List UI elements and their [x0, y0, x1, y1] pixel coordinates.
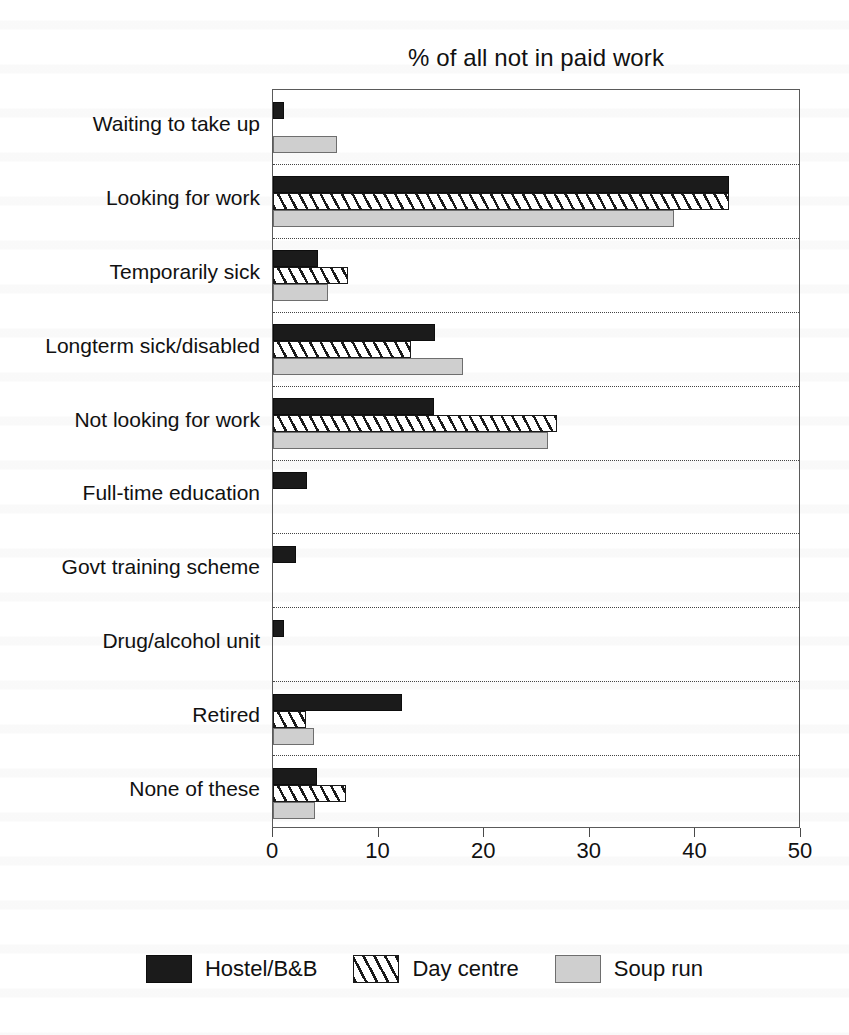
bar-souprun: [273, 210, 674, 227]
bar-group: [273, 164, 799, 238]
bar-hostel: [273, 694, 402, 711]
hatched-swatch: [353, 955, 399, 983]
x-axis-tick: [800, 828, 801, 837]
bar-group: [273, 681, 799, 755]
legend-label: Hostel/B&B: [205, 956, 318, 982]
solid-black-swatch: [146, 955, 192, 983]
bar-daycentre: [273, 267, 348, 284]
bar-group: [273, 90, 799, 164]
bar-daycentre: [273, 341, 411, 358]
plot-area: [272, 89, 800, 828]
y-axis-category-label: Waiting to take up: [0, 112, 260, 136]
bar-souprun: [273, 728, 314, 745]
x-axis-tick-label: 0: [242, 838, 302, 864]
bar-group: [273, 533, 799, 607]
bar-hostel: [273, 250, 318, 267]
y-axis-category-label: Looking for work: [0, 186, 260, 210]
bar-hostel: [273, 102, 284, 119]
bars-layer: [273, 90, 799, 827]
x-axis-tick: [483, 828, 484, 837]
legend-item: Soup run: [555, 955, 703, 983]
x-axis-tick-label: 10: [348, 838, 408, 864]
bar-group: [273, 460, 799, 534]
bar-hostel: [273, 768, 317, 785]
x-axis-tick-label: 50: [770, 838, 830, 864]
bar-hostel: [273, 620, 284, 637]
y-axis-category-label: Retired: [0, 703, 260, 727]
x-axis-tick-label: 20: [453, 838, 513, 864]
bar-hostel: [273, 472, 307, 489]
y-axis-category-label: Govt training scheme: [0, 555, 260, 579]
bar-souprun: [273, 284, 328, 301]
bar-hostel: [273, 324, 435, 341]
y-axis-category-label: Temporarily sick: [0, 260, 260, 284]
bar-souprun: [273, 136, 337, 153]
bar-souprun: [273, 432, 548, 449]
bar-hostel: [273, 176, 729, 193]
bar-daycentre: [273, 415, 557, 432]
bar-daycentre: [273, 711, 306, 728]
y-axis-category-label: Drug/alcohol unit: [0, 629, 260, 653]
bar-chart: % of all not in paid work Waiting to tak…: [0, 0, 849, 1035]
bar-group: [273, 755, 799, 829]
y-axis-category-label: Not looking for work: [0, 408, 260, 432]
bar-daycentre: [273, 193, 729, 210]
y-axis-category-label: Full-time education: [0, 481, 260, 505]
x-axis-tick-label: 30: [559, 838, 619, 864]
bar-souprun: [273, 358, 463, 375]
bar-hostel: [273, 398, 434, 415]
legend-item: Hostel/B&B: [146, 955, 318, 983]
bar-group: [273, 238, 799, 312]
y-axis-category-label: None of these: [0, 777, 260, 801]
x-axis-tick: [694, 828, 695, 837]
chart-title: % of all not in paid work: [272, 44, 800, 72]
x-axis-tick-label: 40: [664, 838, 724, 864]
chart-legend: Hostel/B&BDay centreSoup run: [0, 955, 849, 983]
bar-hostel: [273, 546, 296, 563]
x-axis-tick: [272, 828, 273, 837]
y-axis-category-label: Longterm sick/disabled: [0, 334, 260, 358]
bar-daycentre: [273, 785, 346, 802]
legend-label: Day centre: [412, 956, 518, 982]
x-axis-tick: [589, 828, 590, 837]
grey-swatch: [555, 955, 601, 983]
bar-souprun: [273, 802, 315, 819]
bar-group: [273, 607, 799, 681]
bar-group: [273, 312, 799, 386]
legend-label: Soup run: [614, 956, 703, 982]
legend-item: Day centre: [353, 955, 518, 983]
x-axis-tick: [378, 828, 379, 837]
bar-group: [273, 386, 799, 460]
